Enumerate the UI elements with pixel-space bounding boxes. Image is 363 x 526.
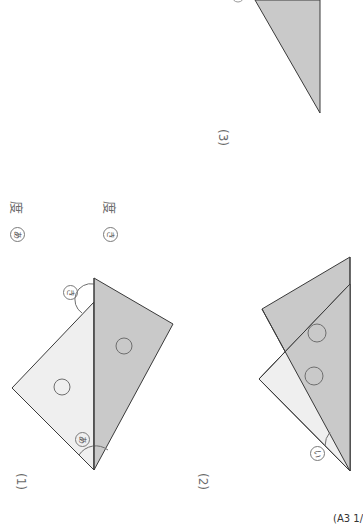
answer-unit-ki: 度 [103,201,116,214]
answer-mark-a: あ [10,227,25,242]
problem-1-number: (1) [15,473,27,487]
figure-2 [259,257,350,471]
angle-label-i: い [310,446,325,461]
answer-unit-a: 度 [10,201,23,214]
figure-1 [12,278,173,470]
answer-mark-ki: き [103,227,118,242]
angle-label-ki: き [63,285,78,300]
angle-label-a: あ [75,432,90,447]
problem-3-number: (3) [217,129,229,143]
page-reference: (A3 1/ [333,513,363,524]
figure-3 [232,0,320,113]
figure-3-gray-triangle [255,0,320,113]
figure-3-partial-circle [232,0,244,2]
problem-2-number: (2) [197,473,209,487]
figure-1-gray-triangle [94,278,173,470]
